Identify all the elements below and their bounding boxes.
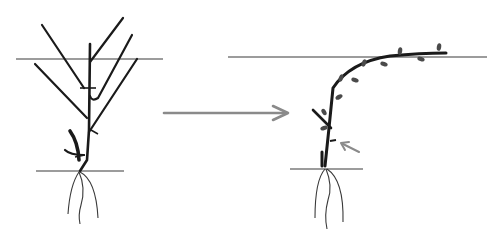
spur-right: [330, 140, 336, 141]
main-trunk-left: [80, 44, 90, 171]
transition-arrow: [164, 106, 288, 120]
bud: [351, 77, 360, 84]
shoot-middle-right: [90, 35, 132, 100]
bud: [436, 43, 442, 51]
trained-cane: [325, 53, 446, 166]
after-panel: [228, 43, 487, 229]
diagram-canvas: [0, 0, 499, 241]
bud: [380, 61, 389, 68]
small-curl-left: [65, 150, 84, 155]
roots-left: [68, 172, 98, 224]
cut-mark-2: [91, 130, 98, 134]
bud: [335, 93, 344, 101]
indicator-arrow: [341, 142, 359, 152]
shoot-upper-right: [90, 18, 123, 62]
buds: [320, 43, 442, 131]
before-panel: [16, 18, 163, 224]
roots-right: [315, 169, 343, 229]
bud: [320, 108, 327, 116]
shoot-lower-left: [35, 64, 87, 118]
